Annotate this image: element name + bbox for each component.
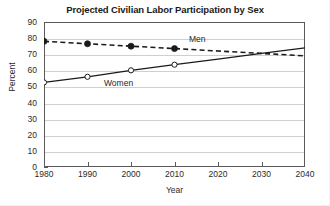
x-tick-mark xyxy=(131,162,132,167)
y-tick-mark xyxy=(44,167,48,168)
x-tick-label: 2020 xyxy=(209,170,228,179)
chart-title: Projected Civilian Labor Participation b… xyxy=(0,4,330,15)
data-point-marker xyxy=(85,74,90,79)
x-tick-mark xyxy=(88,162,89,167)
data-point-marker xyxy=(128,68,133,73)
x-tick-label: 1990 xyxy=(78,170,97,179)
x-tick-label: 2040 xyxy=(296,170,315,179)
x-tick-label: 2000 xyxy=(122,170,141,179)
y-tick-label: 50 xyxy=(28,82,37,91)
data-point-marker xyxy=(44,80,47,85)
x-tick-label: 2030 xyxy=(252,170,271,179)
y-tick-label: 40 xyxy=(28,98,37,107)
y-tick-label: 90 xyxy=(28,18,37,27)
data-point-marker xyxy=(172,46,178,52)
y-tick-label: 10 xyxy=(28,147,37,156)
data-point-marker xyxy=(44,38,47,44)
y-tick-label: 30 xyxy=(28,114,37,123)
y-tick-label: 60 xyxy=(28,66,37,75)
series-label-women: Women xyxy=(104,79,133,88)
x-tick-mark xyxy=(175,162,176,167)
chart-figure: Projected Civilian Labor Participation b… xyxy=(0,0,330,206)
y-tick-label: 70 xyxy=(28,50,37,59)
x-axis-title: Year xyxy=(44,185,305,195)
x-tick-label: 1980 xyxy=(35,170,54,179)
y-tick-label: 80 xyxy=(28,34,37,43)
x-tick-mark xyxy=(218,162,219,167)
y-tick-label: 20 xyxy=(28,131,37,140)
data-point-marker xyxy=(85,41,91,47)
data-point-marker xyxy=(172,62,177,67)
series-layer xyxy=(44,22,305,167)
series-label-men: Men xyxy=(189,35,206,44)
x-tick-label: 2010 xyxy=(165,170,184,179)
x-tick-mark xyxy=(262,162,263,167)
y-axis-tick-labels: 0102030405060708090 xyxy=(0,22,42,167)
series-women xyxy=(44,48,305,85)
data-point-marker xyxy=(128,43,134,49)
